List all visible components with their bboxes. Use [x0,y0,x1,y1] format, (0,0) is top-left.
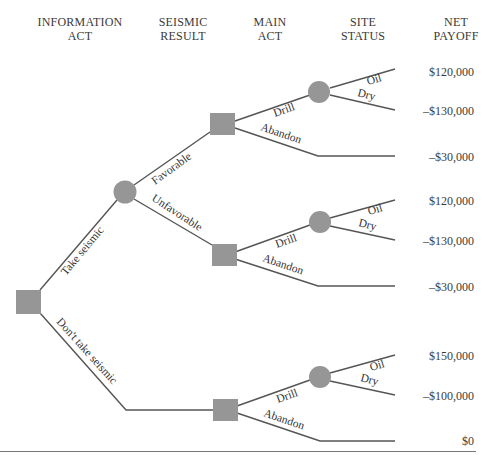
label-take-seismic: Take seismic [58,224,105,277]
decision-node-main-no-seismic [213,399,238,421]
payoff-6: –$30,000 [429,280,474,295]
decision-node-information [16,290,41,314]
label-unfavorable: Unfavorable [150,192,205,233]
payoff-2: –$130,000 [423,104,474,119]
payoff-4: $120,000 [429,194,474,209]
payoff-8: –$100,000 [423,389,474,404]
label-dont-take-seismic: Don't take seismic [55,315,120,386]
branch-oil-2 [330,200,395,218]
payoff-9: $0 [462,434,474,449]
label-favorable: Favorable [149,150,193,187]
label-dry-2: Dry [357,216,378,233]
branch-abandon-1 [235,128,395,156]
label-dry-3: Dry [359,371,380,388]
label-abandon-1: Abandon [259,121,303,146]
chance-node-site-1 [308,81,330,103]
label-drill-1: Drill [272,100,297,119]
label-abandon-2: Abandon [261,252,305,277]
payoff-1: $120,000 [429,65,474,80]
branch-oil-3 [330,355,395,373]
branch-oil-1 [330,69,395,88]
chance-node-site-2 [309,211,331,233]
decision-node-main-unfavorable [212,244,237,266]
decision-node-main-favorable [210,113,235,135]
label-abandon-3: Abandon [262,407,306,432]
payoff-3: –$30,000 [429,150,474,165]
payoff-7: $150,000 [429,349,474,364]
label-oil-3: Oil [368,357,385,373]
label-drill-3: Drill [275,386,300,405]
chance-node-seismic [114,181,137,204]
bottom-rule [0,451,476,452]
chance-node-site-3 [309,366,331,388]
decision-tree: Take seismic Don't take seismic Favorabl… [0,0,488,460]
label-drill-2: Drill [274,231,299,250]
branch-abandon-3 [237,413,395,441]
branch-favorable [134,132,210,185]
label-dry-1: Dry [356,86,377,103]
branch-abandon-2 [235,259,395,286]
payoff-5: –$130,000 [423,234,474,249]
